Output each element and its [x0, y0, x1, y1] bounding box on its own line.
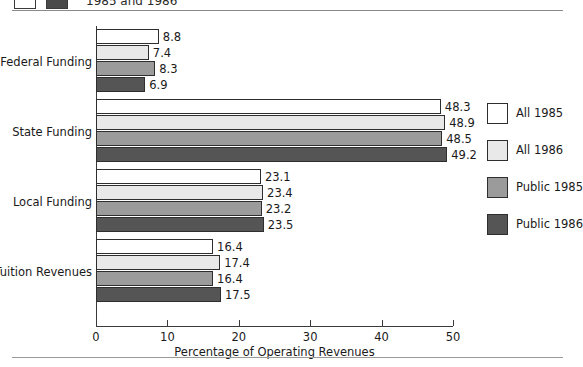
x-tick-label: 0 [76, 330, 116, 344]
legend-label: Public 1986 [516, 217, 583, 231]
bar [96, 201, 262, 216]
bar [96, 99, 441, 114]
bar [96, 255, 220, 270]
x-tick-mark [310, 320, 311, 326]
bar [96, 147, 447, 162]
x-tick-mark [239, 320, 240, 326]
category-label: Local Funding [0, 195, 92, 209]
footer-divider [12, 357, 563, 358]
legend-label: All 1985 [516, 106, 563, 120]
bar [96, 217, 264, 232]
legend-swatch-icon [487, 177, 508, 198]
category-label: Federal Funding [0, 55, 92, 69]
bar [96, 239, 213, 254]
legend-label: All 1986 [516, 143, 563, 157]
x-axis-line [96, 326, 453, 327]
x-tick-mark [453, 320, 454, 326]
bar-value-label: 8.8 [163, 30, 181, 44]
category-label: State Funding [0, 125, 92, 139]
bar [96, 61, 155, 76]
bar [96, 169, 261, 184]
bar [96, 287, 221, 302]
bar [96, 115, 445, 130]
bar-value-label: 23.2 [266, 202, 292, 216]
bar-value-label: 48.9 [449, 116, 475, 130]
bar-value-label: 17.5 [225, 288, 251, 302]
bar [96, 29, 159, 44]
category-label: Tuition Revenues [0, 265, 92, 279]
bar [96, 45, 149, 60]
legend-label: Public 1985 [516, 180, 583, 194]
bar-value-label: 48.5 [446, 132, 472, 146]
legend-swatch-icon [487, 214, 508, 235]
x-tick-label: 30 [290, 330, 330, 344]
x-tick-mark [382, 320, 383, 326]
bar [96, 77, 145, 92]
bar-value-label: 16.4 [217, 240, 243, 254]
bar-value-label: 48.3 [445, 100, 471, 114]
x-tick-label: 40 [362, 330, 402, 344]
legend-swatch-icon [487, 103, 508, 124]
x-tick-label: 10 [147, 330, 187, 344]
bar [96, 131, 442, 146]
bar-value-label: 7.4 [153, 46, 171, 60]
bar-value-label: 23.5 [268, 218, 294, 232]
bar-value-label: 16.4 [217, 272, 243, 286]
legend-swatch-icon [487, 140, 508, 161]
x-tick-label: 50 [433, 330, 473, 344]
bar-value-label: 23.1 [265, 170, 291, 184]
bar [96, 185, 263, 200]
bar-value-label: 49.2 [451, 148, 477, 162]
bar-value-label: 8.3 [159, 62, 177, 76]
x-tick-label: 20 [219, 330, 259, 344]
bar [96, 271, 213, 286]
x-tick-mark [167, 320, 168, 326]
bar-value-label: 6.9 [149, 78, 167, 92]
bar-value-label: 23.4 [267, 186, 293, 200]
x-tick-mark [96, 320, 97, 326]
bar-value-label: 17.4 [224, 256, 250, 270]
